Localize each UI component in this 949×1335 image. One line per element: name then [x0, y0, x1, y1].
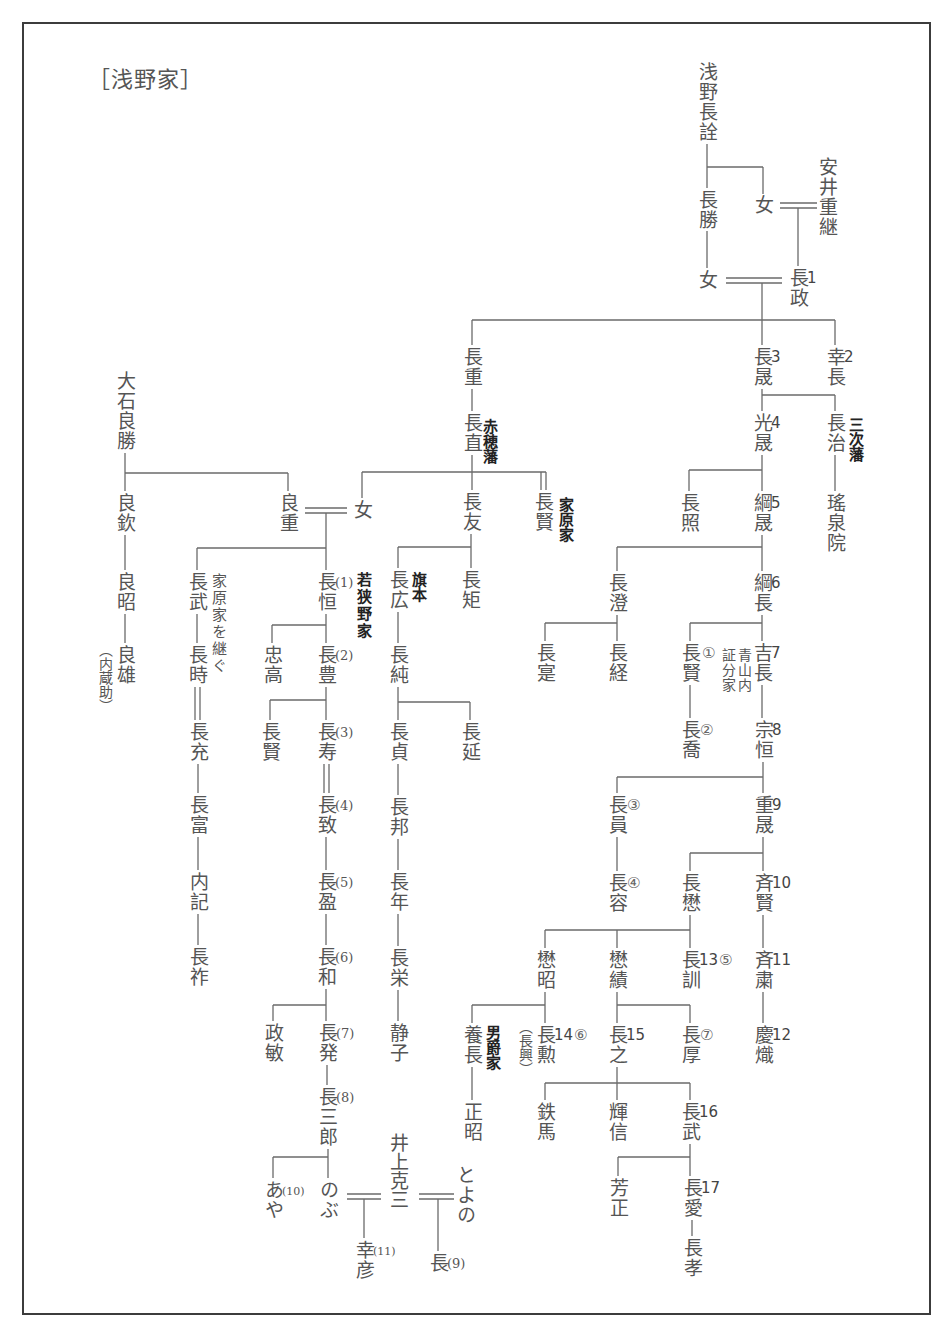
- person-node: 良重: [278, 493, 298, 533]
- person-name: 長之: [607, 1025, 627, 1065]
- person-name: 良雄: [115, 645, 135, 685]
- person-node: 長経: [607, 643, 627, 683]
- person-node: 鉄馬: [535, 1102, 555, 1142]
- person-node: 長盈(5): [316, 872, 336, 912]
- generation-number: 4: [771, 414, 781, 432]
- domain-note: 赤穂藩: [481, 419, 497, 464]
- person-node: 長致(4): [316, 795, 336, 835]
- person-name: 長厚: [680, 1025, 700, 1065]
- person-node: 長武16: [680, 1102, 700, 1142]
- person-name: 長和: [316, 947, 336, 987]
- person-name: 正昭: [462, 1102, 482, 1142]
- generation-number: 6: [771, 574, 781, 592]
- person-node: 忠高: [262, 645, 282, 685]
- person-name: 養長: [462, 1025, 482, 1065]
- person-node: 長直赤穂藩: [462, 413, 482, 453]
- person-name: とよの: [455, 1165, 475, 1225]
- person-node: 幸長2: [825, 347, 845, 387]
- person-name: 長勲: [535, 1025, 555, 1065]
- person-name: 懋昭: [535, 950, 555, 990]
- branch-number: (8): [336, 1090, 354, 1105]
- person-name: 女: [352, 500, 372, 520]
- person-node: 長和(6): [316, 947, 336, 987]
- person-name: 長勝: [697, 190, 717, 230]
- person-name: 浅野長詮: [697, 62, 717, 142]
- person-name: 長延: [460, 722, 480, 762]
- person-node: 長懋: [680, 873, 700, 913]
- person-name: 長武: [680, 1102, 700, 1142]
- person-node: 光晟4: [752, 413, 772, 453]
- person-name: 長三郎: [317, 1087, 337, 1147]
- person-node: 女: [352, 500, 372, 520]
- person-name: 輝信: [607, 1102, 627, 1142]
- person-name: 静子: [388, 1023, 408, 1063]
- person-node: 女: [697, 270, 717, 290]
- branch-number: ①: [702, 644, 715, 662]
- person-node: 長重: [462, 347, 482, 387]
- person-name: 長治: [825, 413, 845, 453]
- person-name: 斉賢: [753, 873, 773, 913]
- person-node: あや(10): [263, 1180, 283, 1220]
- person-node: （長興）長勲14⑥: [535, 1025, 555, 1065]
- person-node: 女: [753, 195, 773, 215]
- generation-number: 15: [626, 1026, 645, 1044]
- person-name: 幸長: [825, 347, 845, 387]
- person-node: 斉賢10: [753, 873, 773, 913]
- family-note: 家原家: [557, 497, 573, 542]
- person-name: 光晟: [752, 413, 772, 453]
- person-name: 長矩: [460, 570, 480, 610]
- person-node: 長豊(2): [316, 645, 336, 685]
- person-name: 長澄: [607, 573, 627, 613]
- person-name: 長友: [461, 492, 481, 532]
- person-node: 長邦: [388, 797, 408, 837]
- person-name: 長年: [388, 872, 408, 912]
- person-node: 懋績: [607, 950, 627, 990]
- person-node: 長容④: [607, 873, 627, 913]
- person-name: 長寔: [535, 643, 555, 683]
- person-name: 長栄: [388, 948, 408, 988]
- person-node: 長厚⑦: [680, 1025, 700, 1065]
- person-node: 正昭: [462, 1102, 482, 1142]
- person-name: 長盈: [316, 872, 336, 912]
- person-node: 長訓13⑤: [680, 950, 700, 990]
- person-node: 芳正: [608, 1178, 628, 1218]
- person-name: 長愛: [682, 1178, 702, 1218]
- person-name: 長賢: [260, 722, 280, 762]
- person-node: 長愛17: [682, 1178, 702, 1218]
- branch-number: (9): [447, 1256, 465, 1271]
- person-name: 長発: [317, 1023, 337, 1063]
- person-node: 良昭: [115, 572, 135, 612]
- person-node: 懋昭: [535, 950, 555, 990]
- person-node: 長治三次藩: [825, 413, 845, 453]
- branch-number: (11): [373, 1245, 396, 1258]
- person-node: 瑤泉院: [825, 493, 845, 553]
- person-node: （内蔵助）良雄: [115, 645, 135, 685]
- person-name: 長照: [679, 493, 699, 533]
- person-node: 長之15: [607, 1025, 627, 1065]
- person-node: 長三郎(8): [317, 1087, 337, 1147]
- person-node: 長貞: [388, 722, 408, 762]
- person-name: 良昭: [115, 572, 135, 612]
- person-node: 大石良勝: [115, 371, 135, 451]
- person-name: 長政: [788, 268, 808, 308]
- person-node: 長政1: [788, 268, 808, 308]
- person-node: 長純: [388, 645, 408, 685]
- person-node: 長(9): [428, 1253, 448, 1273]
- person-node: 長発(7): [317, 1023, 337, 1063]
- rank-note: 旗本: [410, 572, 426, 602]
- person-name: 良重: [278, 493, 298, 533]
- alias-note: （内蔵助）: [97, 643, 113, 713]
- person-name: あや: [263, 1180, 283, 1220]
- person-node: 吉長7: [752, 643, 772, 683]
- person-node: 長矩: [460, 570, 480, 610]
- person-node: 浅野長詮: [697, 62, 717, 142]
- person-name: 長孝: [682, 1238, 702, 1278]
- person-node: 長照: [679, 493, 699, 533]
- branch-number: (10): [282, 1185, 305, 1198]
- generation-number: 1: [807, 269, 817, 287]
- generation-number: 14: [554, 1026, 573, 1044]
- person-node: 長寿(3): [316, 722, 336, 762]
- person-name: 長懋: [680, 873, 700, 913]
- person-name: 瑤泉院: [825, 493, 845, 553]
- person-name: 内記: [188, 872, 208, 912]
